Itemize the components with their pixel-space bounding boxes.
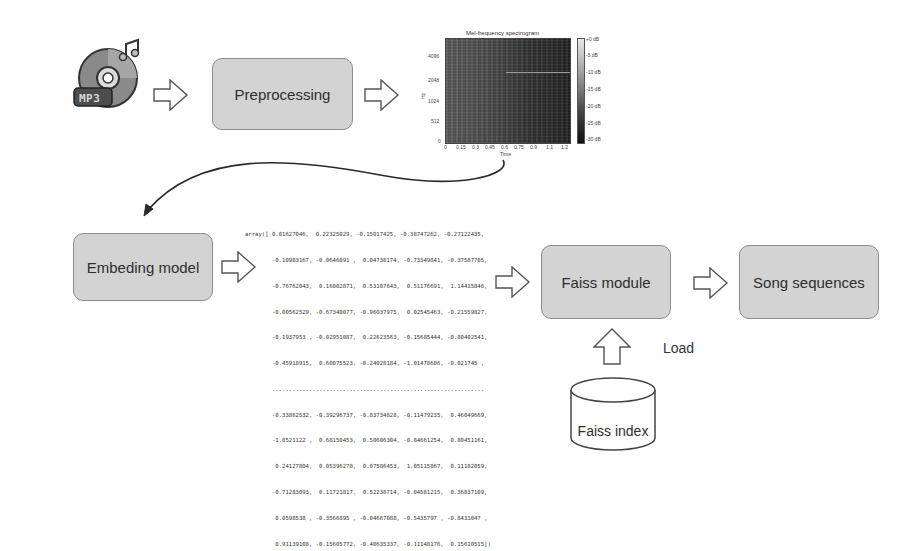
faiss-index-label: Faiss index bbox=[569, 423, 657, 439]
embedding-model-label: Embeding model bbox=[87, 259, 200, 276]
array-line: -0.71283093, 0.11721817, 0.52238714, -0.… bbox=[245, 488, 491, 497]
song-sequences-label: Song sequences bbox=[753, 274, 865, 291]
array-line: -0.10903167, -0.0646091 , 0.04738174, -0… bbox=[245, 256, 491, 265]
load-edge-label: Load bbox=[663, 340, 694, 356]
array-line: array([ 0.01627046, 0.22325029, -0.15017… bbox=[245, 230, 491, 239]
arrow-right-icon bbox=[693, 267, 729, 299]
faiss-module-label: Faiss module bbox=[561, 274, 650, 291]
array-line: -1.0521122 , 0.68150453, 0.58606304, -0.… bbox=[245, 436, 491, 445]
database-cylinder-icon bbox=[569, 376, 657, 452]
array-line: 0.91139108, -0.15605772, -0.40635337, -0… bbox=[245, 540, 491, 549]
array-line: -0.1937953 , -0.02951087, 0.22623563, -0… bbox=[245, 333, 491, 342]
array-line: -0.45918915, 0.60075523, -0.24028184, -1… bbox=[245, 359, 491, 368]
embedding-array: array([ 0.01627046, 0.22325029, -0.15017… bbox=[245, 213, 491, 551]
arrow-right-icon bbox=[495, 266, 531, 298]
embedding-model-node: Embeding model bbox=[73, 233, 213, 301]
array-line: -0.33862532, -0.39296737, -0.83734828, -… bbox=[245, 411, 491, 420]
array-ellipsis: ........................................… bbox=[245, 385, 491, 394]
array-line: 0.24127804, 0.05396278, 0.07586453, 1.05… bbox=[245, 462, 491, 471]
array-line: 0.0598538 , -0.3566895 , -0.04667088, -0… bbox=[245, 514, 491, 523]
array-line: -0.00562529, -0.67340077, -0.96037975, 0… bbox=[245, 308, 491, 317]
faiss-module-node: Faiss module bbox=[541, 245, 671, 319]
song-sequences-node: Song sequences bbox=[739, 245, 879, 319]
array-line: -0.76762043, 0.16002871, 0.53107643, 0.5… bbox=[245, 282, 491, 291]
arrow-up-icon bbox=[593, 328, 631, 366]
